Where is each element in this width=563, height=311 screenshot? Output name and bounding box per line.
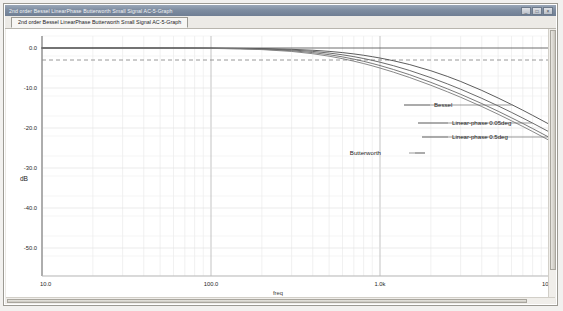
chart-background	[6, 29, 555, 299]
tab-strip: 2nd order Bessel LinearPhase Butterworth…	[5, 16, 556, 29]
x-tick-label: 10.0	[40, 281, 51, 287]
horizontal-scrollbar[interactable]	[6, 297, 555, 304]
callout-label-butterworth: Butterworth	[350, 149, 381, 156]
y-tick-label: -30.0	[24, 165, 37, 171]
y-tick-label: -50.0	[24, 245, 37, 251]
window-title-bar[interactable]: 2nd order Bessel LinearPhase Butterworth…	[5, 5, 556, 16]
window-controls: _ □ ×	[521, 7, 556, 15]
y-axis-title: dB	[20, 175, 29, 182]
maximize-button[interactable]: □	[532, 7, 542, 15]
x-tick-label: 100.0	[204, 281, 219, 287]
tab-graph-label: 2nd order Bessel LinearPhase Butterworth…	[18, 19, 181, 26]
vertical-scrollbar-thumb[interactable]	[550, 30, 556, 270]
callout-label-linear-phase-0-5deg: Linear-phase 0.5deg	[452, 133, 508, 140]
x-axis-title: freq	[273, 290, 283, 296]
y-tick-label: -10.0	[24, 85, 37, 91]
horizontal-scrollbar-thumb[interactable]	[7, 299, 527, 303]
y-tick-label: -20.0	[24, 125, 37, 131]
x-tick-label: 1.0k	[375, 281, 386, 287]
tab-graph[interactable]: 2nd order Bessel LinearPhase Butterworth…	[11, 17, 188, 28]
graph-window: 2nd order Bessel LinearPhase Butterworth…	[3, 3, 558, 306]
y-tick-label: 0.0	[29, 45, 37, 51]
minimize-button[interactable]: _	[521, 7, 531, 15]
callout-label-bessel: Bessel	[434, 101, 452, 108]
y-tick-label: -40.0	[24, 205, 37, 211]
vertical-scrollbar[interactable]	[548, 29, 556, 299]
callout-label-linear-phase-0-05deg: Linear-phase 0.05deg	[452, 119, 511, 126]
plot-area[interactable]: 0.0-10.0-20.0-30.0-40.0-50.0 10.0100.01.…	[6, 29, 555, 299]
window-title-text: 2nd order Bessel LinearPhase Butterworth…	[5, 8, 521, 14]
close-button[interactable]: ×	[543, 7, 553, 15]
bode-magnitude-chart: 0.0-10.0-20.0-30.0-40.0-50.0 10.0100.01.…	[6, 29, 555, 299]
application-root: 2nd order Bessel LinearPhase Butterworth…	[0, 0, 563, 311]
